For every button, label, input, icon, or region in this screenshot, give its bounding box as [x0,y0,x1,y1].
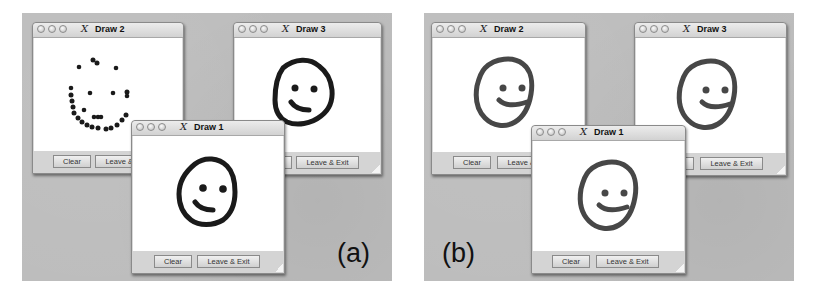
zoom-icon[interactable] [59,25,67,33]
minimize-icon[interactable] [547,128,555,136]
window-controls [37,25,67,33]
clear-button[interactable]: Clear [552,255,590,268]
window-title: Draw 1 [194,122,224,132]
window-draw-1[interactable]: X Draw 1 Clear Leave & Exit [131,120,285,274]
button-bar: Clear Leave & Exit [132,251,284,273]
resize-grip-icon[interactable] [676,264,684,272]
window-controls [639,25,669,33]
x11-logo-icon: X [480,23,487,34]
panel-label: (b) [442,238,475,269]
title-bar[interactable]: X Draw 2 [33,23,183,38]
clear-button[interactable]: Clear [453,156,491,169]
title-bar[interactable]: X Draw 3 [635,23,786,38]
leave-exit-button[interactable]: Leave & Exit [296,156,359,169]
window-title: Draw 3 [296,24,326,34]
close-icon[interactable] [436,25,444,33]
zoom-icon[interactable] [558,128,566,136]
leave-exit-button[interactable]: Leave & Exit [700,157,763,170]
window-controls [136,123,166,131]
zoom-icon[interactable] [260,25,268,33]
drawing-canvas[interactable] [133,136,283,251]
window-title: Draw 2 [494,24,524,34]
leave-exit-button[interactable]: Leave & Exit [197,255,260,268]
window-draw-1[interactable]: X Draw 1 Clear Leave & Exit [531,125,686,274]
zoom-icon[interactable] [458,25,466,33]
close-icon[interactable] [639,25,647,33]
window-title: Draw 3 [697,24,727,34]
drawing-smiley [533,141,684,251]
clear-button[interactable]: Clear [154,255,192,268]
minimize-icon[interactable] [650,25,658,33]
minimize-icon[interactable] [48,25,56,33]
resize-grip-icon[interactable] [372,165,380,173]
window-title: Draw 1 [594,127,624,137]
minimize-icon[interactable] [447,25,455,33]
panel-label: (a) [337,238,370,269]
x11-logo-icon: X [81,23,88,34]
title-bar[interactable]: X Draw 2 [432,23,585,38]
window-controls [536,128,566,136]
minimize-icon[interactable] [249,25,257,33]
close-icon[interactable] [136,123,144,131]
x11-logo-icon: X [180,121,187,132]
resize-grip-icon[interactable] [777,166,785,174]
x11-logo-icon: X [282,23,289,34]
close-icon[interactable] [238,25,246,33]
panel-b: X Draw 2 Clear Leave & Exit [424,13,794,281]
title-bar[interactable]: X Draw 1 [132,121,284,136]
window-title: Draw 2 [95,24,125,34]
clear-button[interactable]: Clear [53,155,91,168]
title-bar[interactable]: X Draw 3 [234,23,381,38]
resize-grip-icon[interactable] [275,264,283,272]
drawing-canvas[interactable] [533,141,684,251]
drawing-smiley [133,136,283,251]
title-bar[interactable]: X Draw 1 [532,126,685,141]
zoom-icon[interactable] [661,25,669,33]
x11-logo-icon: X [683,23,690,34]
close-icon[interactable] [536,128,544,136]
close-icon[interactable] [37,25,45,33]
leave-exit-button[interactable]: Leave & Exit [596,255,659,268]
x11-logo-icon: X [580,126,587,137]
window-controls [436,25,466,33]
panel-a: X Draw 2 Clear [22,13,392,281]
zoom-icon[interactable] [158,123,166,131]
button-bar: Clear Leave & Exit [532,251,685,273]
minimize-icon[interactable] [147,123,155,131]
window-controls [238,25,268,33]
